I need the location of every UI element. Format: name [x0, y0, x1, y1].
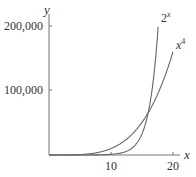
label-x-pow-4: x4 — [175, 37, 185, 52]
label-2-pow-x: 2x — [161, 10, 171, 25]
x-tick-label-10: 10 — [105, 159, 117, 173]
y-axis-label: y — [42, 2, 50, 17]
chart: y x 200,000 100,000 10 20 2x x4 — [0, 0, 196, 177]
curve-2-pow-x — [49, 27, 158, 155]
x-axis-label: x — [183, 147, 190, 162]
y-tick-label-200000: 200,000 — [4, 19, 43, 33]
x-tick-label-20: 20 — [167, 159, 179, 173]
y-tick-label-100000: 100,000 — [4, 83, 43, 97]
